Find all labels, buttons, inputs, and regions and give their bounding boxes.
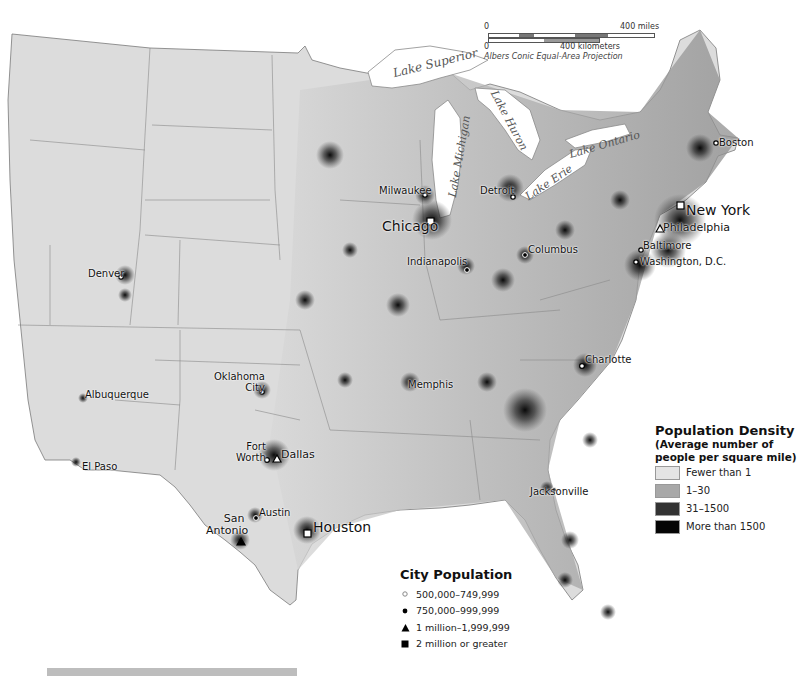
city-legend-label: 2 million or greater — [416, 638, 507, 649]
boston-symbol — [714, 141, 718, 145]
city-label-columbus: Columbus — [528, 245, 578, 256]
city-label-albuquerque: Albuquerque — [85, 390, 149, 401]
us-population-density-map — [0, 0, 798, 676]
city-label-dallas: Dallas — [281, 449, 315, 461]
houston-symbol — [304, 530, 311, 537]
density-swatch-1-30 — [655, 484, 680, 498]
city-legend-item: 750,000–999,999 — [400, 603, 560, 620]
city-label-washington: Washington, D.C. — [640, 257, 726, 268]
city-label-el-paso: El Paso — [82, 462, 117, 473]
density-swatch-more-than-1500 — [655, 520, 680, 534]
city-label-houston: Houston — [313, 520, 371, 535]
city-legend-label: 750,000–999,999 — [416, 605, 499, 616]
scale-miles-end: 400 miles — [620, 22, 659, 31]
filled-circle-icon — [400, 606, 410, 616]
city-label-philadelphia: Philadelphia — [663, 222, 730, 234]
city-legend-item: 2 million or greater — [400, 636, 560, 653]
density-legend-item: More than 1500 — [655, 518, 797, 535]
density-legend-subtitle-2: people per square mile) — [655, 451, 797, 464]
city-legend-title: City Population — [400, 567, 560, 582]
city-label-new-york: New York — [686, 203, 750, 218]
city-label-fort-worth: Fort Worth — [236, 442, 266, 463]
city-label-chicago: Chicago — [382, 219, 438, 234]
projection-note: Albers Conic Equal-Area Projection — [484, 52, 623, 61]
scale-km-zero: 0 — [484, 42, 489, 51]
scale-bar: 0 400 miles 0 400 kilometers Albers Coni… — [484, 22, 664, 68]
density-legend-subtitle-1: (Average number of — [655, 438, 797, 451]
washington-symbol — [634, 260, 638, 264]
density-swatch-31-1500 — [655, 502, 680, 516]
city-label-jacksonville: Jacksonville — [530, 487, 588, 498]
city-label-boston: Boston — [719, 138, 754, 149]
city-label-austin: Austin — [259, 508, 290, 519]
density-legend-item: 31–1500 — [655, 500, 797, 517]
triangle-icon — [400, 622, 410, 632]
city-label-indianapolis: Indianapolis — [407, 257, 467, 268]
okc-line-2: City — [245, 382, 265, 393]
columbus-symbol — [523, 253, 528, 258]
new-york-symbol — [677, 202, 684, 209]
scale-km-end: 400 kilometers — [560, 42, 620, 51]
city-label-baltimore: Baltimore — [643, 241, 691, 252]
indianapolis-symbol — [465, 268, 470, 273]
open-circle-icon — [400, 589, 410, 599]
city-label-milwaukee: Milwaukee — [379, 186, 432, 197]
austin-symbol — [254, 516, 259, 521]
city-population-legend: City Population 500,000–749,999 750,000–… — [400, 567, 560, 652]
bottom-gray-bar — [47, 668, 297, 676]
density-legend-item: Fewer than 1 — [655, 464, 797, 481]
density-label: 1–30 — [686, 485, 710, 496]
density-swatch-fewer-than-1 — [655, 466, 680, 480]
city-legend-item: 500,000–749,999 — [400, 586, 560, 603]
city-label-denver: Denver — [88, 269, 124, 280]
fort-worth-line-2: Worth — [236, 452, 266, 463]
okc-line-1: Oklahoma — [214, 371, 265, 382]
city-legend-item: 1 million–1,999,999 — [400, 619, 560, 636]
scale-miles-zero: 0 — [484, 22, 489, 31]
density-legend-item: 1–30 — [655, 482, 797, 499]
density-legend-title: Population Density — [655, 424, 797, 438]
city-label-detroit: Detroit — [480, 186, 514, 197]
density-label: More than 1500 — [686, 521, 765, 532]
square-icon — [400, 639, 410, 649]
density-label: 31–1500 — [686, 503, 729, 514]
city-legend-label: 500,000–749,999 — [416, 589, 499, 600]
san-antonio-line-2: Antonio — [206, 524, 248, 537]
population-density-legend: Population Density (Average number of pe… — [655, 424, 797, 535]
city-label-memphis: Memphis — [408, 380, 453, 391]
city-label-charlotte: Charlotte — [585, 355, 631, 366]
charlotte-symbol — [580, 364, 585, 369]
city-label-san-antonio: San Antonio — [220, 513, 248, 536]
city-label-oklahoma-city: Oklahoma City — [214, 372, 265, 393]
density-label: Fewer than 1 — [686, 467, 751, 478]
city-legend-label: 1 million–1,999,999 — [416, 622, 510, 633]
fort-worth-line-1: Fort — [246, 441, 266, 452]
